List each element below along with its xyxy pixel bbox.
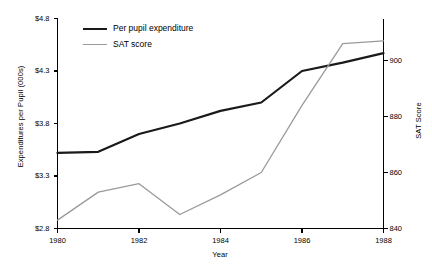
legend-swatches (83, 29, 107, 45)
legend-label-sat-score: SAT score (113, 39, 152, 49)
chart-plot-area (0, 0, 432, 267)
x-axis-tick-label: 1988 (364, 236, 404, 245)
y-axis-left-tick-label: $2.8 (10, 224, 50, 233)
series-line-sat-score (58, 41, 384, 220)
y-axis-right-tick-label: 840 (390, 224, 430, 233)
line-chart: Expenditures per Pupil (000s) SAT Score … (0, 0, 432, 267)
x-axis-tick-label: 1986 (282, 236, 322, 245)
tick-marks (54, 19, 388, 233)
y-axis-left-tick-label: $3.3 (10, 171, 50, 180)
x-axis-tick-label: 1984 (201, 236, 241, 245)
y-axis-left-tick-label: $4.8 (10, 14, 50, 23)
series-line-expenditure (58, 53, 384, 153)
x-axis-tick-label: 1980 (38, 236, 78, 245)
legend-label-expenditure: Per pupil expenditure (113, 23, 193, 33)
data-series-lines (58, 41, 384, 220)
y-axis-right-tick-label: 900 (390, 56, 430, 65)
y-axis-right-tick-label: 880 (390, 112, 430, 121)
axis-lines (58, 19, 384, 229)
x-axis-title: Year (180, 250, 260, 259)
y-axis-left-tick-label: $4.3 (10, 66, 50, 75)
y-axis-left-tick-label: $3.8 (10, 119, 50, 128)
x-axis-tick-label: 1982 (119, 236, 159, 245)
y-axis-right-title: SAT Score (414, 61, 423, 181)
y-axis-right-tick-label: 860 (390, 168, 430, 177)
